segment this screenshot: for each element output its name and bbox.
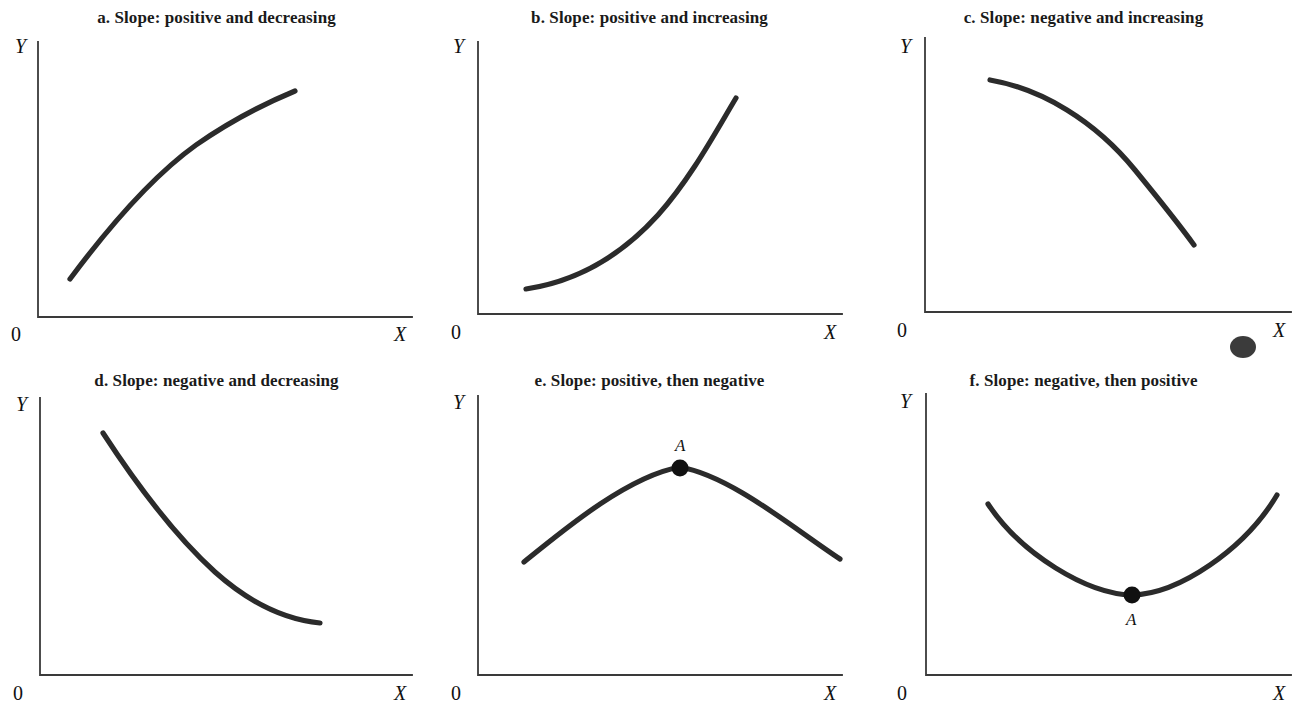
panel-d-curve	[103, 433, 320, 623]
panel-c-axes	[925, 38, 1291, 312]
panel-e-curve	[524, 467, 840, 562]
panel-d-x-axis-label: X	[393, 682, 407, 704]
panel-a-plot: Y 0 X	[0, 0, 433, 350]
panel-f-axes	[926, 394, 1291, 675]
panel-e-plot: A Y 0 X	[433, 350, 866, 713]
panel-f-origin-label: 0	[897, 682, 907, 704]
panel-d-y-axis-label: Y	[16, 393, 29, 415]
panel-a-y-axis-label: Y	[15, 35, 28, 57]
panel-b-origin-label: 0	[451, 321, 461, 343]
panel-c-plot: Y 0 X	[867, 0, 1300, 350]
panel-c-curve	[990, 80, 1194, 245]
panel-b-plot: Y 0 X	[433, 0, 866, 350]
panel-d-plot: Y 0 X	[0, 350, 433, 713]
panel-f-x-axis-label: X	[1272, 682, 1286, 704]
panel-b-y-axis-label: Y	[453, 35, 466, 57]
figure-grid: a. Slope: positive and decreasing Y 0 X …	[0, 0, 1300, 713]
panel-e-origin-label: 0	[451, 682, 461, 704]
panel-e-x-axis-label: X	[823, 682, 837, 704]
panel-b-axes	[478, 42, 842, 314]
panel-f-point-a-marker	[1124, 587, 1141, 604]
panel-b-curve	[526, 98, 736, 289]
panel-e-point-a-label: A	[674, 436, 686, 455]
panel-a-x-axis-label: X	[393, 323, 407, 345]
panel-f-plot: A Y 0 X	[867, 350, 1300, 713]
panel-a-curve	[70, 91, 295, 279]
panel-d-origin-label: 0	[13, 682, 23, 704]
panel-f-y-axis-label: Y	[900, 390, 913, 412]
panel-e-point-a-marker	[672, 460, 689, 477]
panel-c-origin-label: 0	[897, 319, 907, 341]
panel-a-axes	[38, 42, 412, 317]
panel-f-curve	[988, 495, 1277, 595]
panel-c-x-axis-label: X	[1272, 319, 1286, 341]
panel-f-point-a-label: A	[1125, 610, 1137, 629]
panel-e-axes	[478, 396, 842, 675]
page-corner-smudge	[1230, 336, 1256, 358]
panel-c-y-axis-label: Y	[900, 35, 913, 57]
panel-b-x-axis-label: X	[823, 321, 837, 343]
panel-e-y-axis-label: Y	[453, 391, 466, 413]
panel-d-axes	[40, 398, 412, 675]
panel-a-origin-label: 0	[11, 323, 21, 345]
